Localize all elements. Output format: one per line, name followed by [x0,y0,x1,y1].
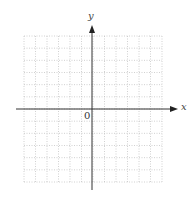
origin-label: 0 [84,110,90,121]
x-axis-label: x [181,101,187,112]
x-axis-arrow-icon [170,106,178,112]
coordinate-plane [0,0,194,199]
y-axis-arrow-icon [89,25,95,33]
y-axis-label: y [88,10,94,21]
